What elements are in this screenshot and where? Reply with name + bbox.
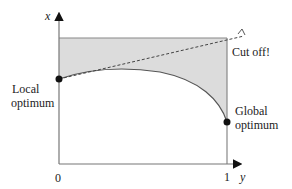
x-axis-label: y bbox=[239, 170, 246, 184]
tick-one-label: 1 bbox=[224, 170, 230, 184]
tick-zero-label: 0 bbox=[55, 171, 61, 185]
local-optimum-point bbox=[56, 76, 63, 83]
shaded-feasible-region bbox=[59, 38, 227, 122]
local-optimum-label-line2: optimum bbox=[11, 96, 55, 110]
cut-off-label: Cut off! bbox=[232, 45, 270, 59]
y-axis-label: x bbox=[44, 9, 51, 23]
local-optimum-label-line1: Local bbox=[12, 82, 40, 96]
global-optimum-point bbox=[224, 119, 231, 126]
global-optimum-label-line1: Global bbox=[235, 104, 268, 118]
optimization-diagram: x y 0 1 Local optimum Global optimum Cut… bbox=[0, 0, 292, 189]
global-optimum-label-line2: optimum bbox=[235, 118, 279, 132]
cut-off-arrow-icon bbox=[238, 29, 245, 35]
